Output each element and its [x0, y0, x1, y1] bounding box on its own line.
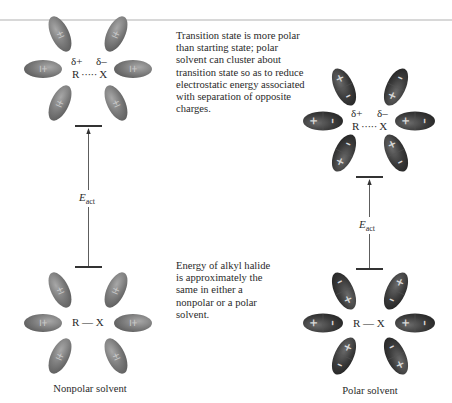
nonpolar-activation-energy-label: Eact — [79, 190, 95, 207]
polar-solvent-caption: Polar solvent — [325, 385, 415, 396]
polar-ts-molecule: R ····· X — [352, 120, 387, 132]
ground-state-note: Energy of alkyl halide is approximately … — [176, 260, 276, 321]
polar-activation-energy-label: Eact — [359, 217, 375, 234]
polar-ts-delta-plus: δ+ — [351, 107, 362, 119]
transition-state-note: Transition state is more polar than star… — [176, 30, 306, 115]
polar-gs-molecule: R — X — [353, 317, 385, 329]
nonpolar-ts-molecule: R ····· X — [72, 68, 107, 80]
nonpolar-ts-delta-minus: δ– — [96, 55, 107, 67]
nonpolar-gs-molecule: R — X — [72, 316, 104, 328]
nonpolar-solvent-caption: Nonpolar solvent — [40, 383, 140, 394]
polar-ts-delta-minus: δ– — [377, 107, 388, 119]
nonpolar-ts-delta-plus: δ+ — [71, 55, 82, 67]
